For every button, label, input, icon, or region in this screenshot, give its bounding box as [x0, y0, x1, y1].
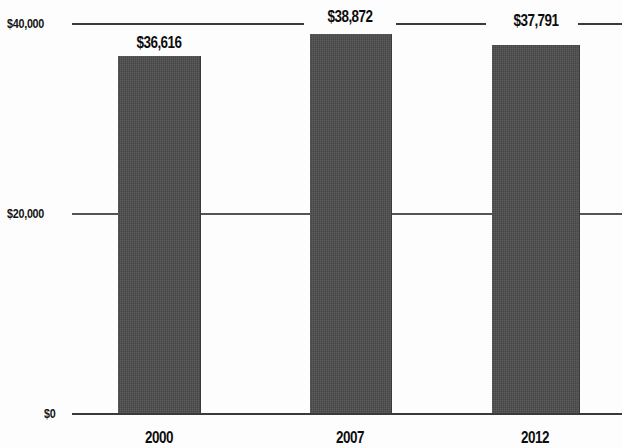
- axis-baseline-zero: [72, 413, 622, 415]
- bar-value-label-2007: $38,872: [308, 9, 392, 26]
- gridline-40000-segment-b: [396, 23, 486, 25]
- bar-value-label-2000: $36,616: [117, 35, 201, 52]
- y-axis-tick-0: $0: [44, 407, 55, 421]
- plot-area: $40,000 $20,000 $0 $36,616 $38,872 $37,7…: [0, 0, 622, 448]
- bar-2000: [118, 56, 201, 413]
- bar-2012: [492, 45, 580, 413]
- y-axis-tick-20000: $20,000: [7, 207, 44, 221]
- bar-value-label-2012: $37,791: [494, 13, 578, 30]
- bar-chart: $40,000 $20,000 $0 $36,616 $38,872 $37,7…: [0, 0, 622, 448]
- gridline-40000-segment-a: [72, 23, 304, 25]
- gridline-40000-segment-c: [572, 23, 622, 25]
- x-axis-label-2007: 2007: [308, 430, 392, 447]
- bar-2007: [310, 34, 392, 413]
- y-axis-tick-40000: $40,000: [7, 17, 44, 31]
- x-axis-label-2000: 2000: [117, 430, 201, 447]
- x-axis-label-2012: 2012: [493, 430, 577, 447]
